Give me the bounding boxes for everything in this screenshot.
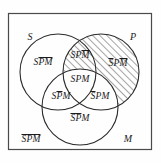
venn-diagram-figure: S P M SPM SPM SPM SPM SPM SPM SPM SPM — [0, 0, 161, 163]
set-label-s: S — [28, 31, 33, 42]
region-spm-part-0: SPM — [70, 75, 89, 85]
region-label-spm: SPM — [70, 74, 89, 85]
region-label-m-only: SPM — [70, 112, 89, 124]
region-sp-not-m-part-1: M — [81, 50, 89, 61]
region-p-only-part-2: M — [119, 58, 127, 69]
region-sp-not-m-part-0: SP — [70, 51, 81, 61]
region-sm-not-p-part-2: M — [62, 92, 70, 102]
set-label-m: M — [124, 133, 132, 144]
region-label-p-only: SPM — [108, 57, 127, 69]
region-label-s-only: SPM — [33, 56, 52, 68]
region-s-only-part-1: PM — [38, 57, 52, 68]
region-m-only-part-1: M — [81, 114, 89, 124]
region-label-outside-all: SPM — [21, 133, 40, 145]
region-pm-not-s-part-1: PM — [95, 92, 109, 102]
region-label-sp-not-m: SPM — [70, 49, 89, 61]
region-m-only-part-0: SP — [70, 113, 81, 124]
region-label-sm-not-p: SPM — [51, 90, 70, 102]
region-outside-all-part-0: SPM — [21, 134, 40, 145]
region-label-pm-not-s: SPM — [90, 90, 109, 102]
set-label-p: P — [130, 31, 136, 42]
